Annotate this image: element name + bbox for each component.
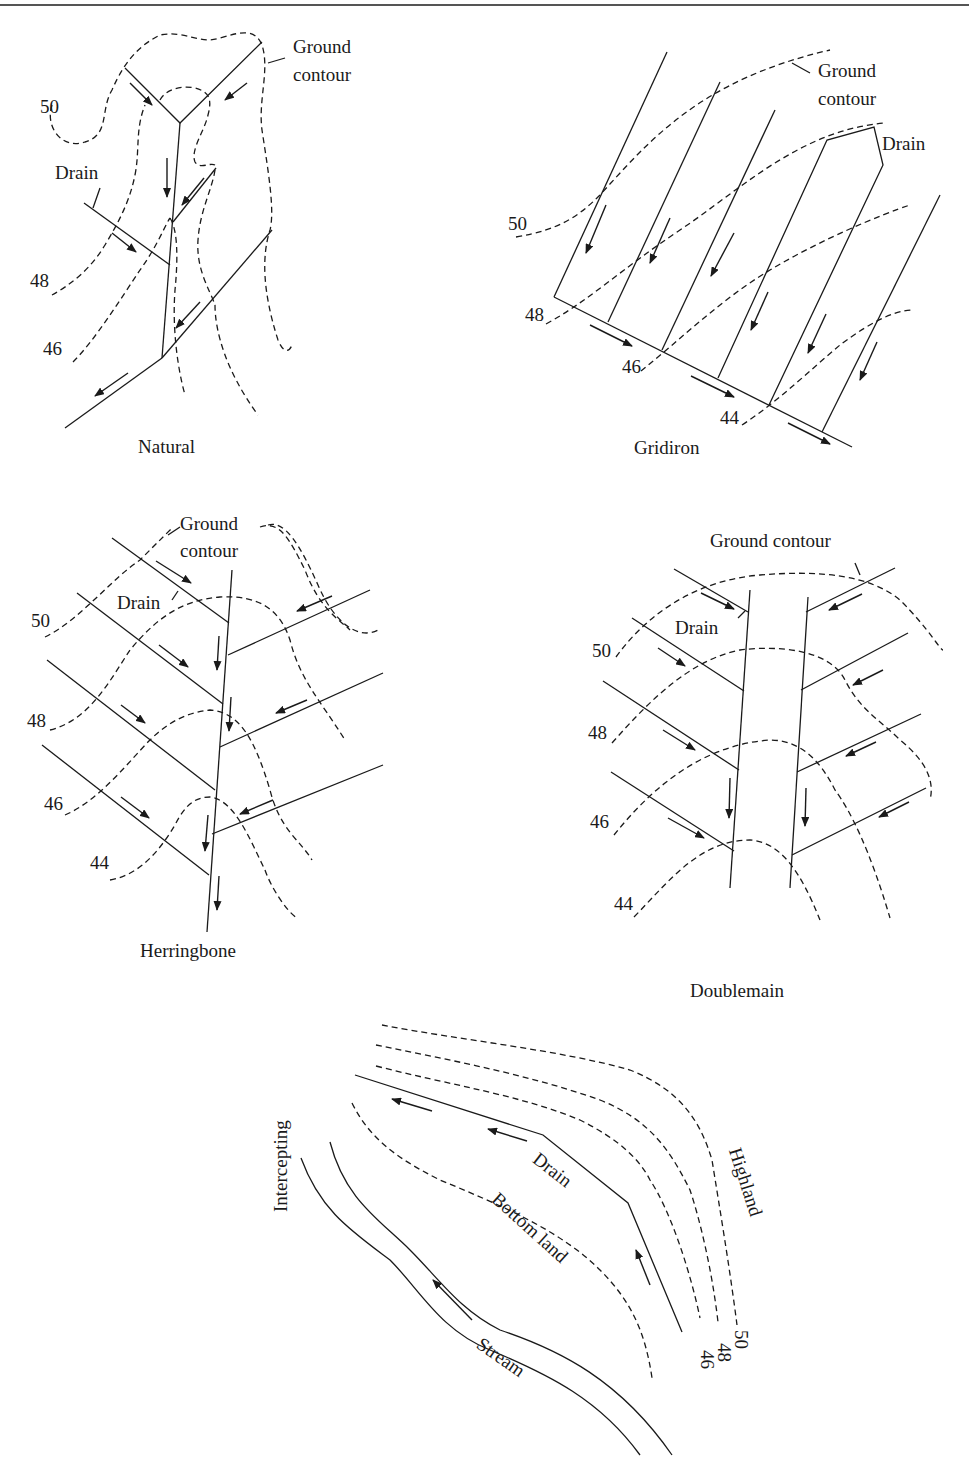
intercepting-diagram xyxy=(301,1025,737,1455)
gridiron-title: Gridiron xyxy=(634,437,699,458)
doublemain-title: Doublemain xyxy=(690,980,784,1001)
drain-leader-line xyxy=(93,188,100,208)
natural-ground-contour-label-1: Ground xyxy=(293,36,351,57)
herringbone-contour-48: 48 xyxy=(27,710,46,731)
gridiron-contour-46: 46 xyxy=(622,356,641,377)
contour-leader-line xyxy=(268,58,285,63)
drain-leader-line xyxy=(172,591,178,600)
drainage-patterns-figure: Ground contour Drain 50 48 46 Natural Gr… xyxy=(0,0,969,1460)
intercepting-contour-46: 46 xyxy=(697,1350,718,1369)
stream-bank-left xyxy=(301,1158,640,1455)
natural-contour-48: 48 xyxy=(30,270,49,291)
doublemain-right-main xyxy=(790,597,808,888)
herringbone-title: Herringbone xyxy=(140,940,236,961)
gridiron-ground-contour-label-1: Ground xyxy=(818,60,876,81)
natural-drain-branch xyxy=(173,168,216,222)
gridiron-contour-44: 44 xyxy=(720,407,739,428)
herringbone-ground-contour-label-1: Ground xyxy=(180,513,238,534)
gridiron-diagram xyxy=(516,50,940,447)
doublemain-contour-48: 48 xyxy=(588,722,607,743)
natural-drain-label: Drain xyxy=(55,162,98,183)
herringbone-contour-46: 46 xyxy=(44,793,63,814)
contour-leader-line xyxy=(792,63,810,73)
gridiron-contour-48: 48 xyxy=(525,304,544,325)
gridiron-contour-50: 50 xyxy=(508,213,527,234)
doublemain-contour-46: 46 xyxy=(590,811,609,832)
gridiron-ground-contour-label-2: contour xyxy=(818,88,876,109)
doublemain-ground-contour-label: Ground contour xyxy=(710,530,831,551)
doublemain-drain-label: Drain xyxy=(675,617,718,638)
doublemain-contours xyxy=(612,573,943,920)
herringbone-flow-arrows xyxy=(121,561,332,910)
natural-main-drain xyxy=(162,123,180,358)
contour-leader-line xyxy=(855,563,860,575)
herringbone-ground-contour-label-2: contour xyxy=(180,540,238,561)
doublemain-contour-44: 44 xyxy=(614,893,633,914)
intercepting-title: Intercepting xyxy=(270,1120,291,1212)
herringbone-contour-50: 50 xyxy=(31,610,50,631)
natural-drain-left xyxy=(84,203,170,265)
natural-title: Natural xyxy=(138,436,195,457)
gridiron-drain-label: Drain xyxy=(882,133,925,154)
drain-leader-line xyxy=(738,611,745,618)
natural-outlet xyxy=(65,358,162,428)
natural-drain-top xyxy=(125,42,262,123)
natural-ground-contour-label-2: contour xyxy=(293,64,351,85)
natural-contour-46: 46 xyxy=(43,338,62,359)
herringbone-drain-label: Drain xyxy=(117,592,160,613)
herringbone-contour-44: 44 xyxy=(90,852,109,873)
doublemain-diagram xyxy=(603,563,943,920)
natural-drain-right xyxy=(162,230,272,358)
drainage-diagrams-drawing xyxy=(0,0,969,1460)
doublemain-contour-50: 50 xyxy=(592,640,611,661)
natural-contour-50: 50 xyxy=(40,96,59,117)
natural-diagram xyxy=(50,33,292,428)
doublemain-left-main xyxy=(730,590,750,888)
natural-contours xyxy=(50,33,292,415)
gridiron-drain-loop xyxy=(718,127,883,405)
